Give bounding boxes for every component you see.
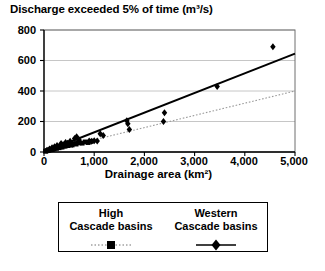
data-point-western-cascade <box>270 43 275 50</box>
legend-marker-diamond-icon <box>164 239 268 251</box>
legend-label-western-line2: Cascade basins <box>164 220 268 233</box>
legend-marker-square-icon <box>59 239 163 251</box>
legend-entry-high-cascade: High Cascade basins <box>59 207 163 233</box>
data-point-western-cascade <box>94 138 99 145</box>
trendline-western-cascade <box>44 54 295 152</box>
chart-figure: Discharge exceeded 5% of time (m³/s) 800… <box>0 0 325 271</box>
legend-label-high-line2: Cascade basins <box>59 220 163 233</box>
legend-label-western-line1: Western <box>164 207 268 220</box>
data-point-western-cascade <box>161 118 166 125</box>
data-point-western-cascade <box>162 109 167 116</box>
chart-legend: High Cascade basins Western Cascade basi… <box>58 202 268 252</box>
legend-label-high-line1: High <box>59 207 163 220</box>
legend-entry-western-cascade: Western Cascade basins <box>164 207 268 233</box>
